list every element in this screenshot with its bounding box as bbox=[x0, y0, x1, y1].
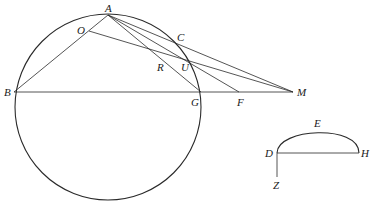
geometry-diagram: A O C R U B G F M E D H Z bbox=[0, 0, 378, 212]
label-A: A bbox=[104, 2, 112, 14]
segment-AM bbox=[108, 15, 293, 92]
label-H: H bbox=[360, 147, 370, 159]
label-E: E bbox=[313, 117, 321, 129]
segment-AF bbox=[108, 15, 239, 92]
label-U: U bbox=[181, 61, 190, 73]
label-B: B bbox=[4, 86, 11, 98]
label-G: G bbox=[191, 96, 199, 108]
label-C: C bbox=[177, 31, 185, 43]
label-O: O bbox=[77, 24, 85, 36]
segment-OM bbox=[89, 31, 293, 92]
label-Z: Z bbox=[273, 179, 280, 191]
label-D: D bbox=[264, 147, 273, 159]
label-M: M bbox=[296, 86, 307, 98]
label-F: F bbox=[236, 96, 244, 108]
arc-DEH bbox=[277, 133, 359, 153]
label-R: R bbox=[156, 61, 164, 73]
